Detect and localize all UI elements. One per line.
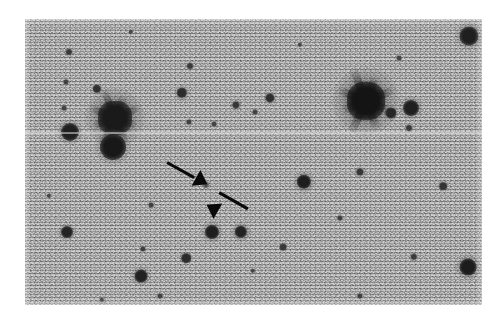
star-lower-right-9 bbox=[460, 259, 477, 276]
page-canvas bbox=[0, 0, 502, 323]
star-top-small-3 bbox=[397, 56, 402, 61]
star-upper-small-1 bbox=[66, 49, 72, 55]
star-lower-left-small-1 bbox=[158, 294, 163, 299]
star-top-right-bright bbox=[460, 27, 479, 46]
star-upper-small-3 bbox=[62, 106, 67, 111]
horizontal-scan-line bbox=[25, 132, 482, 134]
star-lower-mid-1 bbox=[135, 270, 148, 283]
star-far-right-small bbox=[253, 110, 258, 115]
star-lower-right-5 bbox=[439, 182, 447, 190]
star-right-of-bright bbox=[403, 100, 419, 116]
star-lower-right-1 bbox=[205, 225, 219, 239]
astronomical-image-field bbox=[25, 19, 482, 305]
photographic-grain-layer-2 bbox=[25, 19, 482, 305]
bright-star-right bbox=[347, 82, 385, 120]
star-lower-mid-4 bbox=[149, 203, 154, 208]
star-mid-small-5 bbox=[212, 122, 217, 127]
star-below-bright-left bbox=[100, 134, 126, 160]
star-lower-left-1 bbox=[61, 226, 73, 238]
star-lower-mid-2 bbox=[181, 253, 191, 263]
star-near-bright-right-2 bbox=[406, 125, 412, 131]
star-lower-right-7 bbox=[280, 244, 287, 251]
star-mid-small-2 bbox=[187, 63, 193, 69]
